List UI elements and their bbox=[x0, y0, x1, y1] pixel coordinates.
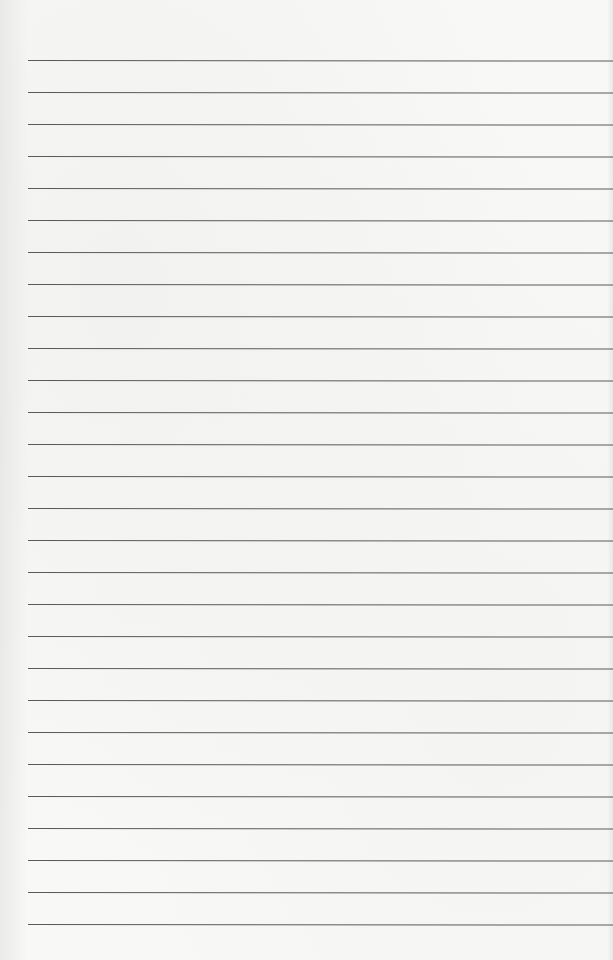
left-edge-shadow bbox=[0, 0, 28, 960]
ruled-line bbox=[28, 508, 613, 510]
ruled-line bbox=[28, 764, 613, 766]
ruled-line bbox=[28, 188, 613, 190]
ruled-line bbox=[28, 476, 613, 478]
ruled-line bbox=[28, 444, 613, 446]
ruled-line bbox=[28, 284, 613, 286]
ruled-line bbox=[28, 316, 613, 318]
ruled-line bbox=[28, 796, 613, 798]
ruled-line bbox=[28, 828, 613, 830]
ruled-line bbox=[28, 732, 613, 734]
ruled-line bbox=[28, 572, 613, 574]
ruled-line bbox=[28, 380, 613, 382]
ruled-line bbox=[28, 124, 613, 126]
ruled-line bbox=[28, 156, 613, 158]
ruled-line bbox=[28, 700, 613, 702]
ruled-line bbox=[28, 636, 613, 638]
ruled-line bbox=[28, 860, 613, 862]
ruled-line bbox=[28, 92, 613, 94]
ruled-line bbox=[28, 924, 613, 926]
ruled-line bbox=[28, 252, 613, 254]
lined-paper-page bbox=[0, 0, 613, 960]
ruled-line bbox=[28, 540, 613, 542]
ruled-line bbox=[28, 60, 613, 62]
ruled-line bbox=[28, 412, 613, 414]
right-edge-shadow bbox=[607, 0, 613, 960]
ruled-line bbox=[28, 348, 613, 350]
ruled-line bbox=[28, 892, 613, 894]
ruled-line bbox=[28, 220, 613, 222]
ruled-line bbox=[28, 668, 613, 670]
ruled-line bbox=[28, 604, 613, 606]
